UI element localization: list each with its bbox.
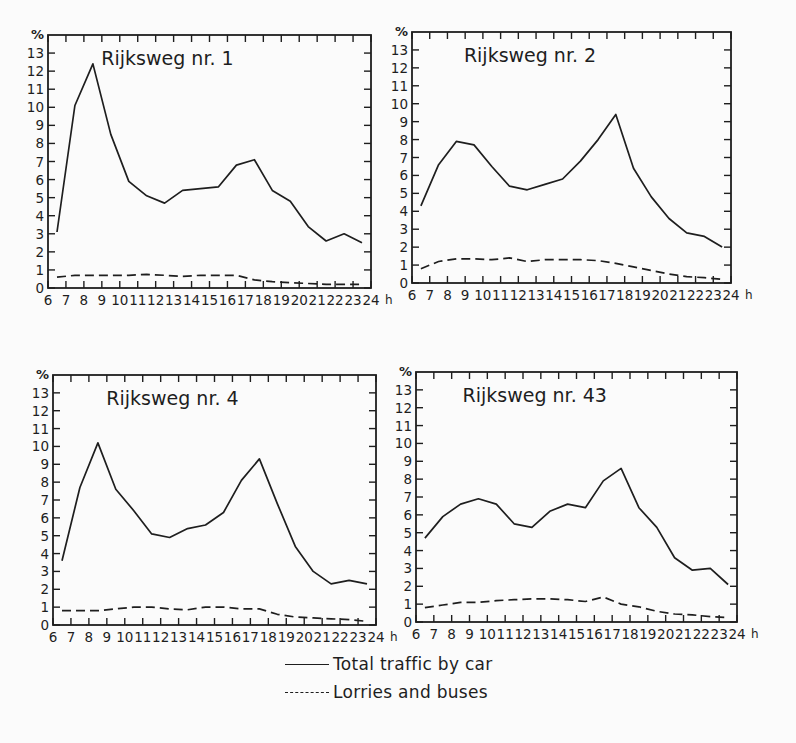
y-tick-label: 10 (32, 438, 49, 454)
x-tick-label: 21 (314, 629, 331, 645)
chart-panel-4: 6789101112131415161718192021222324h01234… (376, 360, 777, 652)
plot-frame (53, 375, 376, 625)
x-tick-label: 9 (103, 629, 112, 645)
x-tick-label: 11 (129, 292, 146, 308)
y-tick-label: 10 (395, 435, 412, 451)
y-tick-label: 9 (403, 453, 412, 469)
chart-svg: 6789101112131415161718192021222324h01234… (376, 360, 777, 648)
solid-line-icon (285, 664, 329, 665)
y-tick-label: 13 (27, 45, 44, 61)
y-tick-label: 8 (399, 132, 408, 148)
x-tick-label: 11 (492, 287, 509, 303)
x-tick-label: 10 (479, 626, 496, 642)
y-tick-label: 3 (40, 563, 49, 579)
chart-panel-3: 6789101112131415161718192021222324h01234… (13, 363, 416, 655)
x-tick-label: 13 (532, 626, 549, 642)
y-tick-label: 1 (403, 596, 412, 612)
x-tick-label: 13 (170, 629, 187, 645)
y-axis-unit: % (31, 27, 44, 42)
x-tick-label: 10 (111, 292, 128, 308)
x-tick-label: 23 (349, 629, 366, 645)
x-tick-label: 8 (85, 629, 94, 645)
plot-frame (48, 35, 371, 288)
x-tick-label: 18 (621, 626, 638, 642)
y-tick-label: 5 (403, 525, 412, 541)
y-tick-label: 0 (403, 614, 412, 630)
y-tick-label: 12 (391, 60, 408, 76)
y-tick-label: 2 (403, 578, 412, 594)
x-tick-label: 16 (586, 626, 603, 642)
y-tick-label: 6 (399, 167, 408, 183)
x-tick-label: 10 (474, 287, 491, 303)
y-tick-label: 1 (399, 257, 408, 273)
x-tick-label: 14 (550, 626, 567, 642)
plot-frame (412, 32, 731, 283)
x-tick-label: 8 (447, 626, 456, 642)
dashed-line-icon (285, 692, 329, 693)
x-tick-label: 6 (412, 626, 421, 642)
y-tick-label: 6 (403, 507, 412, 523)
total-traffic-line (62, 443, 367, 584)
chart-title: Rijksweg nr. 4 (106, 387, 238, 409)
y-tick-label: 4 (40, 546, 49, 562)
x-axis-unit: h (751, 627, 759, 641)
x-tick-label: 23 (344, 292, 361, 308)
x-tick-label: 20 (652, 287, 669, 303)
y-tick-label: 4 (403, 543, 412, 559)
y-tick-label: 3 (403, 560, 412, 576)
x-tick-label: 11 (134, 629, 151, 645)
y-tick-label: 5 (35, 190, 44, 206)
y-tick-label: 2 (399, 239, 408, 255)
total-traffic-line (57, 64, 362, 243)
x-tick-label: 15 (568, 626, 585, 642)
x-tick-label: 17 (598, 287, 615, 303)
y-tick-label: 5 (40, 528, 49, 544)
legend: Total traffic by car Lorries and buses (285, 650, 493, 706)
x-tick-label: 8 (80, 292, 89, 308)
y-tick-label: 9 (35, 117, 44, 133)
chart-svg: 6789101112131415161718192021222324h01234… (372, 20, 771, 309)
y-tick-label: 8 (403, 471, 412, 487)
x-tick-label: 6 (408, 287, 417, 303)
x-tick-label: 13 (165, 292, 182, 308)
x-tick-label: 23 (705, 287, 722, 303)
x-tick-label: 12 (510, 287, 527, 303)
x-tick-label: 13 (527, 287, 544, 303)
chart-svg: 6789101112131415161718192021222324h01234… (13, 363, 416, 651)
x-tick-label: 24 (728, 626, 745, 642)
chart-title: Rijksweg nr. 2 (464, 44, 596, 66)
y-tick-label: 3 (399, 221, 408, 237)
x-tick-label: 12 (152, 629, 169, 645)
plot-frame (416, 372, 737, 622)
y-tick-label: 10 (27, 99, 44, 115)
y-tick-label: 13 (391, 42, 408, 58)
y-tick-label: 13 (32, 385, 49, 401)
y-axis-unit: % (395, 24, 408, 39)
x-tick-label: 6 (44, 292, 53, 308)
x-tick-label: 22 (327, 292, 344, 308)
y-tick-label: 9 (399, 114, 408, 130)
x-tick-label: 22 (332, 629, 349, 645)
x-tick-label: 18 (260, 629, 277, 645)
x-tick-label: 19 (639, 626, 656, 642)
x-tick-label: 20 (291, 292, 308, 308)
x-tick-label: 9 (461, 287, 470, 303)
x-tick-label: 7 (62, 292, 71, 308)
x-tick-label: 9 (98, 292, 107, 308)
x-tick-label: 21 (675, 626, 692, 642)
x-tick-label: 17 (237, 292, 254, 308)
legend-label-lorries-buses: Lorries and buses (333, 682, 488, 702)
y-tick-label: 11 (27, 81, 44, 97)
y-tick-label: 8 (40, 474, 49, 490)
y-tick-label: 2 (35, 244, 44, 260)
y-tick-label: 5 (399, 185, 408, 201)
total-traffic-line (425, 468, 728, 584)
x-tick-label: 19 (273, 292, 290, 308)
y-tick-label: 12 (27, 63, 44, 79)
y-tick-label: 10 (391, 96, 408, 112)
y-tick-label: 1 (40, 599, 49, 615)
y-tick-label: 9 (40, 456, 49, 472)
legend-label-total-traffic: Total traffic by car (333, 654, 493, 674)
x-tick-label: 16 (581, 287, 598, 303)
y-tick-label: 11 (391, 78, 408, 94)
